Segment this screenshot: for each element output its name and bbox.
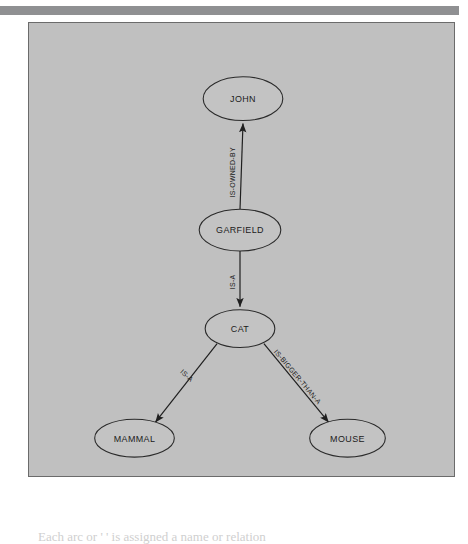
page-top-rule [0, 6, 459, 15]
edge-cat-is-a-mammal: IS-A [155, 344, 217, 423]
edge-label-is-a-mammal: IS-A [179, 368, 195, 383]
edge-label-is-bigger-than-a: IS-BIGGER-THAN-A [273, 348, 323, 405]
node-label-garfield: GARFIELD [216, 225, 264, 235]
edge-label-is-owned-by: IS-OWNED-BY [229, 147, 236, 197]
edge-garfield-is-a-cat: IS-A [229, 251, 240, 307]
node-cat[interactable]: CAT [205, 310, 275, 348]
node-label-cat: CAT [231, 324, 250, 334]
node-label-mouse: MOUSE [330, 434, 365, 444]
node-mammal[interactable]: MAMMAL [95, 419, 175, 457]
semantic-network-diagram: IS-OWNED-BY IS-A IS-A IS-BIGGER-THAN-A J… [29, 23, 454, 476]
figure-caption-text: Each arc or ' ' is assigned a name or re… [38, 529, 428, 544]
node-john[interactable]: JOHN [203, 77, 283, 121]
edge-garfield-is-owned-by-john: IS-OWNED-BY [229, 124, 243, 210]
figure-caption: Each arc or ' ' is assigned a name or re… [38, 529, 428, 544]
node-mouse[interactable]: MOUSE [310, 419, 386, 457]
node-label-mammal: MAMMAL [114, 434, 156, 444]
edge-label-is-a-cat: IS-A [229, 274, 236, 289]
figure-panel: IS-OWNED-BY IS-A IS-A IS-BIGGER-THAN-A J… [28, 22, 455, 477]
node-garfield[interactable]: GARFIELD [199, 209, 281, 251]
node-label-john: JOHN [230, 94, 256, 104]
edge-cat-is-bigger-than-a-mouse: IS-BIGGER-THAN-A [264, 344, 329, 423]
